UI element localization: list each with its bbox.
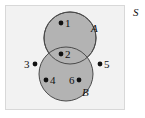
venn-diagram-figure: A B S 123456	[0, 0, 145, 118]
element-label-6: 6	[69, 75, 75, 86]
element-dot-3	[33, 62, 38, 67]
element-dot-4	[44, 78, 49, 83]
set-label-B: B	[82, 87, 89, 98]
element-label-1: 1	[65, 18, 71, 29]
universe-set-label-S: S	[133, 7, 139, 18]
element-label-2: 2	[65, 49, 71, 60]
element-label-5: 5	[104, 59, 110, 70]
element-dot-1	[59, 21, 64, 26]
set-label-A: A	[91, 23, 98, 34]
venn-circles-layer	[0, 0, 145, 118]
element-dot-2	[59, 52, 64, 57]
element-label-3: 3	[24, 59, 30, 70]
element-dot-5	[98, 62, 103, 67]
element-label-4: 4	[50, 75, 56, 86]
element-dot-6	[77, 78, 82, 83]
